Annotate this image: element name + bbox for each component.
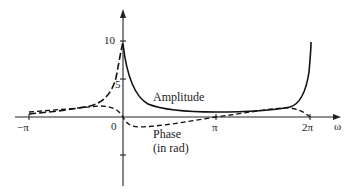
x-tick-label-neg-pi: −π <box>17 122 29 133</box>
amplitude-annotation: Amplitude <box>153 91 204 103</box>
phase-unit-annotation: (in rad) <box>153 142 189 154</box>
x-tick-label-zero: 0 <box>111 121 117 132</box>
phase-annotation: Phase <box>153 128 181 140</box>
x-axis-label-omega: ω <box>334 121 341 132</box>
x-tick-label-pi: π <box>212 122 218 133</box>
amplitude-curve <box>123 42 311 112</box>
amplitude-mirror-dashed-curve <box>29 42 123 114</box>
y-tick-label-5: 5 <box>115 79 121 90</box>
x-tick-label-2pi: 2π <box>302 122 313 133</box>
y-axis-arrow-icon <box>120 9 126 18</box>
y-tick-label-10: 10 <box>104 35 115 46</box>
